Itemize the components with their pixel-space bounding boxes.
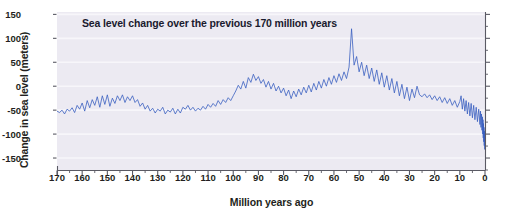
data-series-line <box>57 29 485 150</box>
y-tick-label: -100 <box>0 129 21 140</box>
plot-svg <box>57 12 485 170</box>
plot-area <box>57 12 485 170</box>
x-axis-title: Million years ago <box>57 196 486 208</box>
y-tick-label: 0 <box>0 81 21 92</box>
x-tick-label: 0 <box>465 172 505 183</box>
sea-level-chart-figure: Change in sea level (meters) Sea level c… <box>0 0 510 219</box>
y-tick-label: 50 <box>0 57 21 68</box>
y-tick-label: 100 <box>0 33 21 44</box>
chart-title: Sea level change over the previous 170 m… <box>82 17 337 29</box>
y-tick-label: -50 <box>0 105 21 116</box>
y-tick-label: -150 <box>0 153 21 164</box>
y-tick-label: 150 <box>0 9 21 20</box>
